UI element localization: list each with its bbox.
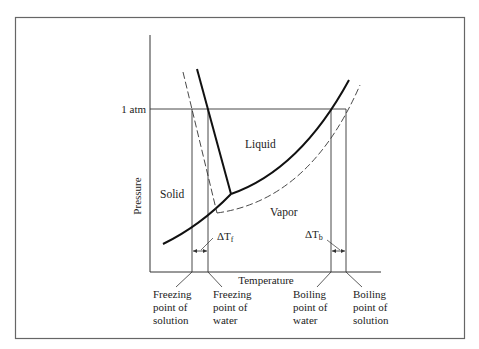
svg-text:water: water — [213, 314, 238, 326]
delta-tf-marker — [193, 238, 213, 253]
solution-vaporization-curve — [217, 85, 360, 213]
callout-leader-1 — [176, 272, 192, 287]
svg-text:solution: solution — [153, 314, 189, 326]
svg-text:point of: point of — [153, 301, 188, 313]
callout-leader-2 — [208, 272, 222, 287]
svg-text:Freezing: Freezing — [153, 288, 192, 300]
svg-text:point of: point of — [213, 301, 248, 313]
callout-boiling-solution: Boiling point of solution — [353, 288, 389, 326]
water-fusion-curve — [197, 69, 231, 194]
svg-text:Boiling: Boiling — [353, 288, 387, 300]
delta-tb-marker — [327, 240, 345, 253]
delta-tb-label: ΔTb — [305, 228, 323, 242]
region-liquid: Liquid — [245, 138, 276, 151]
phase-diagram: 1 atm Pressure Temperature Solid Liquid … — [0, 0, 479, 349]
callout-freezing-water: Freezing point of water — [213, 288, 252, 326]
region-solid: Solid — [160, 188, 185, 200]
callout-boiling-water: Boiling point of water — [293, 288, 328, 326]
callout-leader-3 — [317, 272, 331, 287]
y-axis-label: Pressure — [131, 177, 143, 214]
x-axis-label: Temperature — [238, 274, 294, 286]
svg-text:Boiling: Boiling — [293, 288, 327, 300]
svg-text:point of: point of — [293, 301, 328, 313]
callout-leader-4 — [346, 272, 362, 287]
y-tick-1atm: 1 atm — [121, 103, 146, 115]
svg-text:point of: point of — [353, 301, 388, 313]
svg-text:water: water — [293, 314, 318, 326]
solution-fusion-curve — [183, 72, 217, 213]
delta-tf-label: ΔTf — [217, 230, 234, 244]
callout-freezing-solution: Freezing point of solution — [153, 288, 192, 326]
svg-text:Freezing: Freezing — [213, 288, 252, 300]
svg-text:solution: solution — [353, 314, 389, 326]
region-vapor: Vapor — [270, 206, 298, 219]
